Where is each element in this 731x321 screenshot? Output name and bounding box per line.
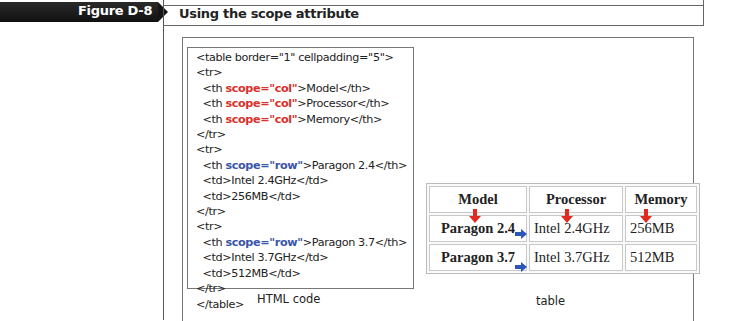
- table-header-row: Model Processor Memory: [429, 186, 697, 213]
- code-line: </tr>: [196, 127, 407, 142]
- figure-title: Using the scope attribute: [179, 6, 359, 21]
- code-line: <th scope="col">Memory</th>: [196, 112, 407, 127]
- code-line: </tr>: [196, 204, 407, 219]
- html-code-listing: <table border="1" cellpadding="5"><tr> <…: [196, 50, 407, 312]
- cell-processor: Intel 3.7GHz: [529, 244, 623, 271]
- code-line: <th scope="col">Processor</th>: [196, 96, 407, 111]
- code-caption: HTML code: [257, 292, 320, 306]
- code-line: <td>256MB</td>: [196, 189, 407, 204]
- table-caption: table: [536, 294, 565, 308]
- row-header-paragon-3-7: Paragon 3.7: [429, 244, 527, 271]
- cell-memory: 256MB: [625, 215, 697, 242]
- code-line: <tr>: [196, 219, 407, 234]
- scope-attribute: scope="row": [225, 159, 302, 172]
- code-line: <td>Intel 3.7GHz</td>: [196, 250, 407, 265]
- code-line: <th scope="col">Model</th>: [196, 81, 407, 96]
- code-line: <td>Intel 2.4GHz</td>: [196, 173, 407, 188]
- title-rule: [163, 25, 703, 26]
- header-memory: Memory: [625, 186, 697, 213]
- table-row: Paragon 3.7 Intel 3.7GHz 512MB: [429, 244, 697, 271]
- header-model: Model: [429, 186, 527, 213]
- code-line: <th scope="row">Paragon 2.4</th>: [196, 158, 407, 173]
- code-line: <tr>: [196, 142, 407, 157]
- rendered-table: Model Processor Memory Paragon 2.4 Intel…: [427, 184, 699, 273]
- title-right-edge: [703, 0, 704, 26]
- code-line: <table border="1" cellpadding="5">: [196, 50, 407, 65]
- scope-attribute: scope="row": [225, 236, 302, 249]
- scope-attribute: scope="col": [225, 82, 297, 95]
- cell-processor: Intel 2.4GHz: [529, 215, 623, 242]
- cell-memory: 512MB: [625, 244, 697, 271]
- code-line: <td>512MB</td>: [196, 266, 407, 281]
- header-processor: Processor: [529, 186, 623, 213]
- scope-attribute: scope="col": [225, 97, 297, 110]
- code-line: <th scope="row">Paragon 3.7</th>: [196, 235, 407, 250]
- vertical-rule: [163, 0, 164, 320]
- scope-attribute: scope="col": [225, 113, 297, 126]
- code-line: <tr>: [196, 65, 407, 80]
- rendered-table-wrapper: Model Processor Memory Paragon 2.4 Intel…: [426, 183, 700, 274]
- figure-label: Figure D-8: [78, 3, 152, 18]
